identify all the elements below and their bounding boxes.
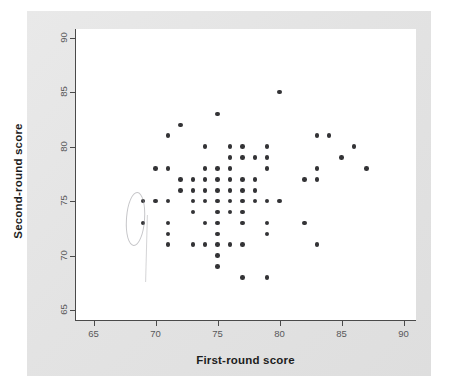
data-point bbox=[228, 166, 233, 171]
x-axis-line bbox=[75, 320, 416, 321]
data-point bbox=[240, 188, 245, 193]
x-tick-85 bbox=[342, 321, 343, 326]
data-point bbox=[215, 177, 220, 182]
data-point bbox=[253, 188, 258, 193]
data-point bbox=[315, 177, 320, 182]
data-point bbox=[240, 242, 245, 247]
data-point bbox=[240, 199, 245, 204]
data-point bbox=[240, 155, 245, 160]
x-tick-75 bbox=[218, 321, 219, 326]
data-point bbox=[153, 166, 158, 171]
y-tick-label-80: 80 bbox=[58, 140, 69, 152]
y-tick-85 bbox=[70, 92, 75, 93]
y-tick-70 bbox=[70, 256, 75, 257]
y-tick-label-65: 65 bbox=[58, 304, 69, 316]
x-tick-label-80: 80 bbox=[267, 328, 293, 339]
y-axis-label: Second-round score bbox=[12, 123, 24, 238]
data-point bbox=[215, 188, 220, 193]
x-tick-65 bbox=[94, 321, 95, 326]
x-tick-label-70: 70 bbox=[143, 328, 169, 339]
x-tick-label-90: 90 bbox=[391, 328, 417, 339]
y-tick-90 bbox=[70, 38, 75, 39]
y-tick-label-75: 75 bbox=[58, 195, 69, 207]
data-point bbox=[215, 242, 220, 247]
data-point bbox=[315, 242, 320, 247]
data-point bbox=[191, 188, 196, 193]
y-tick-75 bbox=[70, 201, 75, 202]
y-tick-65 bbox=[70, 310, 75, 311]
y-tick-label-85: 85 bbox=[58, 86, 69, 98]
data-point bbox=[166, 166, 171, 171]
data-point bbox=[215, 264, 220, 269]
data-point bbox=[240, 275, 245, 280]
data-point bbox=[253, 177, 258, 182]
y-axis-line bbox=[75, 29, 76, 321]
x-tick-90 bbox=[404, 321, 405, 326]
data-point bbox=[240, 177, 245, 182]
data-point bbox=[302, 221, 307, 226]
x-axis-label: First-round score bbox=[75, 354, 416, 366]
data-point bbox=[228, 155, 233, 160]
data-point bbox=[240, 221, 245, 226]
data-point bbox=[178, 188, 183, 193]
data-point bbox=[191, 242, 196, 247]
x-tick-70 bbox=[156, 321, 157, 326]
x-tick-label-75: 75 bbox=[205, 328, 231, 339]
data-point bbox=[253, 155, 258, 160]
data-point bbox=[339, 155, 344, 160]
x-tick-label-65: 65 bbox=[81, 328, 107, 339]
x-tick-80 bbox=[280, 321, 281, 326]
data-point bbox=[240, 210, 245, 215]
plot-area bbox=[75, 29, 416, 321]
data-point bbox=[178, 123, 183, 128]
data-point bbox=[215, 221, 220, 226]
data-point bbox=[215, 112, 220, 117]
data-point bbox=[364, 166, 369, 171]
data-point bbox=[315, 166, 320, 171]
x-tick-label-85: 85 bbox=[329, 328, 355, 339]
data-point bbox=[302, 177, 307, 182]
y-tick-80 bbox=[70, 147, 75, 148]
data-point bbox=[215, 253, 220, 258]
data-point bbox=[203, 188, 208, 193]
data-point bbox=[240, 144, 245, 149]
data-point bbox=[215, 232, 220, 237]
data-point bbox=[228, 188, 233, 193]
y-tick-label-90: 90 bbox=[58, 31, 69, 43]
data-point bbox=[228, 177, 233, 182]
data-point bbox=[215, 166, 220, 171]
scatter-plot-figure: 657075808590 657075808590 First-round sc… bbox=[0, 0, 449, 388]
data-point bbox=[191, 177, 196, 182]
data-point bbox=[315, 133, 320, 138]
data-point bbox=[178, 177, 183, 182]
y-tick-label-70: 70 bbox=[58, 249, 69, 261]
